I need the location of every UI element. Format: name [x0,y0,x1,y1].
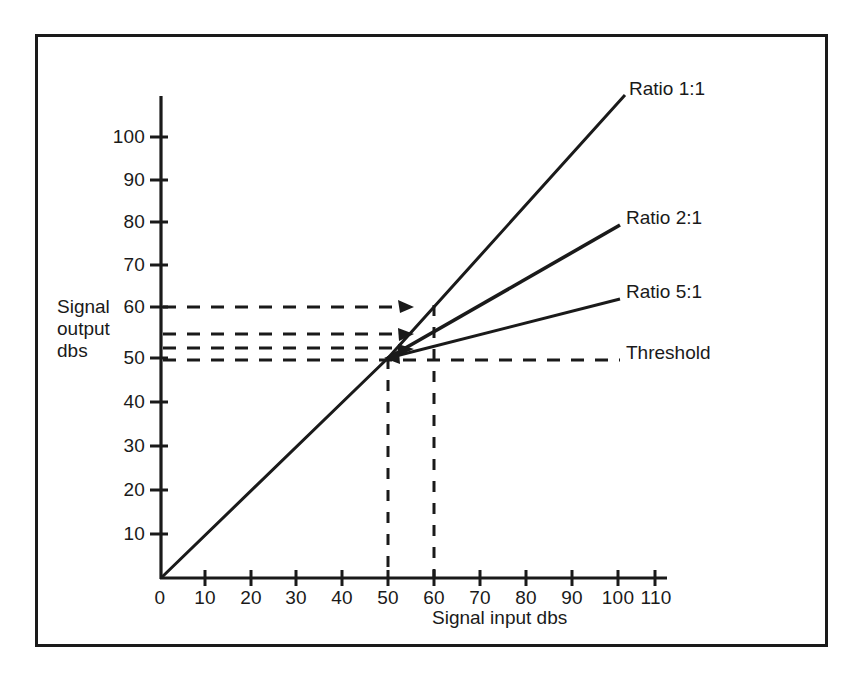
y-tick-label-10: 10 [90,523,145,545]
x-tick-label-40: 40 [322,587,362,609]
y-tick-label-90: 90 [90,169,145,191]
y-tick-label-60: 60 [90,296,145,318]
series-label-ratio-5-1: Ratio 5:1 [626,281,702,303]
x-tick-label-10: 10 [185,587,225,609]
x-tick-label-80: 80 [506,587,546,609]
x-tick-label-0: 0 [140,587,180,609]
y-tick-label-100: 100 [90,126,145,148]
y-axis-title-line-2: output [57,318,110,340]
y-tick-label-20: 20 [90,479,145,501]
figure-container: Signal output dbs Signal input dbs 100 9… [0,0,864,691]
y-tick-label-50: 50 [90,347,145,369]
x-tick-label-70: 70 [460,587,500,609]
figure-border [35,34,828,647]
series-label-ratio-1-1: Ratio 1:1 [629,78,705,100]
y-tick-label-40: 40 [90,391,145,413]
x-tick-label-90: 90 [552,587,592,609]
x-tick-label-30: 30 [276,587,316,609]
series-label-threshold: Threshold [626,342,711,364]
x-tick-label-20: 20 [231,587,271,609]
y-tick-label-30: 30 [90,435,145,457]
y-tick-label-80: 80 [90,211,145,233]
series-label-ratio-2-1: Ratio 2:1 [626,207,702,229]
x-tick-label-110: 110 [632,587,680,609]
x-axis-title: Signal input dbs [432,607,567,629]
x-tick-label-50: 50 [368,587,408,609]
x-tick-label-60: 60 [414,587,454,609]
y-tick-label-70: 70 [90,254,145,276]
